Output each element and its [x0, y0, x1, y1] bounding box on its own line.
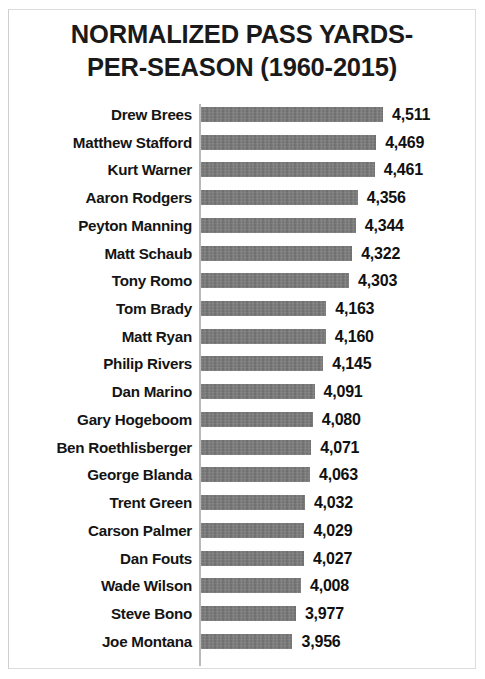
bar-value-label: 4,027 — [313, 550, 352, 567]
bar-category-label: Joe Montana — [14, 634, 192, 649]
bar-row: Matt Schaub4,322 — [0, 246, 485, 274]
bar-row: Philip Rivers4,145 — [0, 356, 485, 384]
bar-fill — [201, 440, 311, 455]
bar-value-label: 4,008 — [310, 577, 349, 594]
bar-row: Carson Palmer4,029 — [0, 523, 485, 551]
bar-row: Matt Ryan4,160 — [0, 329, 485, 357]
bar-row: Kurt Warner4,461 — [0, 162, 485, 190]
bar-row: George Blanda4,063 — [0, 467, 485, 495]
bar-fill — [201, 190, 358, 205]
bar-fill — [201, 578, 301, 593]
bar-value-label: 3,956 — [301, 633, 340, 650]
bar-value-label: 4,032 — [314, 494, 353, 511]
bar-category-label: Aaron Rodgers — [14, 190, 192, 205]
bar-value-label: 4,163 — [335, 300, 374, 317]
bar-value-label: 4,511 — [392, 106, 430, 123]
chart-page: NORMALIZED PASS YARDS- PER-SEASON (1960-… — [0, 0, 485, 679]
bar-fill — [201, 107, 383, 122]
bar-fill — [201, 273, 349, 288]
bar-row: Dan Marino4,091 — [0, 384, 485, 412]
bar-track — [201, 273, 349, 288]
bar-row: Wade Wilson4,008 — [0, 578, 485, 606]
bar-track — [201, 412, 313, 427]
bar-value-label: 4,303 — [358, 272, 397, 289]
bar-fill — [201, 412, 313, 427]
bar-track — [201, 606, 296, 621]
bar-fill — [201, 551, 304, 566]
bar-value-label: 4,461 — [384, 161, 423, 178]
bar-track — [201, 523, 304, 538]
bar-category-label: Tony Romo — [14, 273, 192, 288]
bar-row: Dan Fouts4,027 — [0, 551, 485, 579]
bar-track — [201, 578, 301, 593]
bar-fill — [201, 495, 305, 510]
bar-fill — [201, 384, 315, 399]
bar-value-label: 4,145 — [332, 355, 371, 372]
bar-value-label: 4,091 — [324, 383, 363, 400]
bar-fill — [201, 356, 323, 371]
bar-value-label: 4,160 — [335, 328, 374, 345]
bar-track — [201, 634, 292, 649]
bar-fill — [201, 135, 376, 150]
bar-track — [201, 467, 310, 482]
bar-category-label: Steve Bono — [14, 606, 192, 621]
bar-category-label: Philip Rivers — [14, 356, 192, 371]
bar-fill — [201, 301, 326, 316]
bar-fill — [201, 246, 352, 261]
bar-category-label: Matt Ryan — [14, 329, 192, 344]
bar-value-label: 4,080 — [322, 411, 361, 428]
bar-category-label: Trent Green — [14, 495, 192, 510]
bar-category-label: Gary Hogeboom — [14, 412, 192, 427]
bar-track — [201, 384, 315, 399]
bar-row: Trent Green4,032 — [0, 495, 485, 523]
bar-fill — [201, 162, 375, 177]
bar-row: Joe Montana3,956 — [0, 634, 485, 662]
bar-track — [201, 190, 358, 205]
bar-row: Tony Romo4,303 — [0, 273, 485, 301]
bar-row: Steve Bono3,977 — [0, 606, 485, 634]
bar-track — [201, 551, 304, 566]
bar-track — [201, 301, 326, 316]
bar-value-label: 4,344 — [365, 217, 404, 234]
bar-fill — [201, 218, 356, 233]
bar-value-label: 4,071 — [320, 439, 359, 456]
bar-row: Drew Brees4,511 — [0, 107, 485, 135]
bar-row: Matthew Stafford4,469 — [0, 135, 485, 163]
bar-track — [201, 495, 305, 510]
bar-track — [201, 440, 311, 455]
bar-row: Tom Brady4,163 — [0, 301, 485, 329]
bar-fill — [201, 606, 296, 621]
bar-row: Peyton Manning4,344 — [0, 218, 485, 246]
bar-category-label: Peyton Manning — [14, 218, 192, 233]
bar-category-label: Tom Brady — [14, 301, 192, 316]
bar-value-label: 4,322 — [361, 245, 400, 262]
bar-track — [201, 162, 375, 177]
bar-track — [201, 135, 376, 150]
bar-fill — [201, 329, 326, 344]
bar-track — [201, 356, 323, 371]
bar-value-label: 4,063 — [319, 466, 358, 483]
bar-category-label: Dan Marino — [14, 384, 192, 399]
bar-track — [201, 246, 352, 261]
bar-category-label: Ben Roethlisberger — [14, 440, 192, 455]
bar-track — [201, 329, 326, 344]
bar-category-label: Drew Brees — [14, 107, 192, 122]
bar-category-label: Wade Wilson — [14, 578, 192, 593]
bar-category-label: George Blanda — [14, 467, 192, 482]
bar-category-label: Carson Palmer — [14, 523, 192, 538]
bar-track — [201, 218, 356, 233]
bar-fill — [201, 634, 292, 649]
bar-category-label: Matt Schaub — [14, 246, 192, 261]
bar-category-label: Matthew Stafford — [14, 135, 192, 150]
bar-row: Gary Hogeboom4,080 — [0, 412, 485, 440]
bar-row: Ben Roethlisberger4,071 — [0, 440, 485, 468]
bar-value-label: 4,356 — [367, 189, 406, 206]
plot-area: Drew Brees4,511Matthew Stafford4,469Kurt… — [0, 0, 485, 679]
bar-fill — [201, 523, 304, 538]
bar-row: Aaron Rodgers4,356 — [0, 190, 485, 218]
bar-category-label: Dan Fouts — [14, 551, 192, 566]
bar-fill — [201, 467, 310, 482]
bar-value-label: 3,977 — [305, 605, 344, 622]
bar-category-label: Kurt Warner — [14, 162, 192, 177]
bar-value-label: 4,029 — [313, 522, 352, 539]
